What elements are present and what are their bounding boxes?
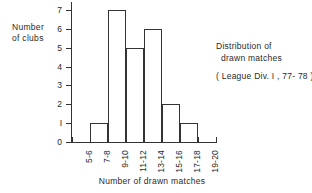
y-axis-tick-label: I bbox=[46, 119, 62, 128]
x-axis-tick-mark bbox=[144, 137, 145, 143]
y-axis-tick-label-wrap: 3 bbox=[46, 85, 62, 86]
y-axis-tick-label-wrap: 0 bbox=[46, 142, 62, 143]
histogram-bar bbox=[180, 123, 198, 142]
histogram-bar bbox=[108, 10, 126, 142]
y-axis-tick-label-wrap: 5 bbox=[46, 48, 62, 49]
y-axis-tick-label: 4 bbox=[46, 63, 62, 72]
x-axis-tick-label: 9-10 bbox=[121, 150, 130, 168]
annotation-line-2: drawn matches bbox=[216, 52, 312, 64]
y-axis-tick-label: 2 bbox=[46, 100, 62, 109]
y-axis-tick-label: 0 bbox=[46, 138, 62, 147]
histogram-bar bbox=[144, 29, 162, 142]
histogram-bar bbox=[126, 48, 144, 142]
y-axis-tick-mark bbox=[66, 104, 72, 105]
x-axis-tick-mark bbox=[216, 137, 217, 143]
y-axis-title-line-2: of clubs bbox=[12, 33, 64, 44]
y-axis-tick-label: 5 bbox=[46, 44, 62, 53]
x-axis-tick-mark bbox=[108, 137, 109, 143]
y-axis-tick-mark bbox=[66, 67, 72, 68]
x-axis-tick-label: 13-14 bbox=[157, 150, 166, 173]
y-axis-tick-mark bbox=[66, 123, 72, 124]
x-axis-title: Number of drawn matches bbox=[72, 176, 232, 186]
x-axis-tick-mark bbox=[180, 137, 181, 143]
x-axis-tick-label: 7-8 bbox=[103, 150, 112, 163]
annotation-line-3: ( League Div. I , 77- 78 ) bbox=[216, 70, 312, 82]
x-axis-tick-mark bbox=[198, 137, 199, 143]
y-axis-tick-label: 7 bbox=[46, 6, 62, 15]
x-axis-tick-label: 5-6 bbox=[85, 150, 94, 163]
y-axis-tick-mark bbox=[66, 85, 72, 86]
y-axis-tick-label-wrap: 7 bbox=[46, 10, 62, 11]
histogram-chart: Number of clubs 0I234567 5-67-89-1011-12… bbox=[0, 0, 312, 193]
x-axis-tick-label: 17-18 bbox=[193, 150, 202, 173]
x-axis-tick-mark bbox=[90, 137, 91, 143]
y-axis-tick-mark bbox=[66, 48, 72, 49]
chart-annotation: Distribution of drawn matches ( League D… bbox=[216, 40, 312, 82]
x-axis-tick-label: 19-20 bbox=[211, 150, 220, 173]
x-axis-tick-mark bbox=[162, 137, 163, 143]
y-axis-line bbox=[71, 2, 72, 143]
x-axis-tick-label: 15-16 bbox=[175, 150, 184, 173]
histogram-bar bbox=[162, 104, 180, 142]
x-axis-tick-mark bbox=[72, 137, 73, 143]
y-axis-tick-mark bbox=[66, 29, 72, 30]
annotation-line-1: Distribution of bbox=[216, 40, 312, 52]
y-axis-tick-mark bbox=[66, 10, 72, 11]
x-axis-tick-label: 11-12 bbox=[139, 150, 148, 172]
y-axis-tick-label-wrap: 2 bbox=[46, 104, 62, 105]
y-axis-tick-label-wrap: 6 bbox=[46, 29, 62, 30]
x-axis-tick-mark bbox=[126, 137, 127, 143]
y-axis-tick-label: 3 bbox=[46, 81, 62, 90]
y-axis-tick-label: 6 bbox=[46, 25, 62, 34]
histogram-bar bbox=[90, 123, 108, 142]
y-axis-tick-label-wrap: I bbox=[46, 123, 62, 124]
y-axis-tick-label-wrap: 4 bbox=[46, 67, 62, 68]
